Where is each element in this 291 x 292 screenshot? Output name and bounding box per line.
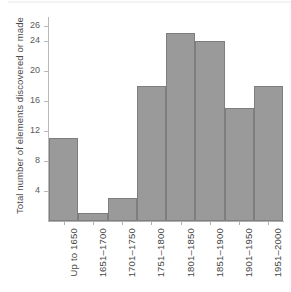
x-axis-label: 1851–1900: [214, 228, 225, 277]
x-tick-mark: [64, 221, 65, 225]
x-axis-labels: Up to 16501651–17001701–17501751–1800180…: [49, 222, 283, 292]
histogram-figure: Total number of elements discovered or m…: [0, 0, 291, 292]
y-tick-label: 24: [30, 35, 40, 45]
bar: [166, 33, 195, 221]
y-axis-title: Total number of elements discovered or m…: [14, 1, 25, 231]
bar: [254, 86, 283, 221]
bar: [225, 108, 254, 221]
y-tick-label: 12: [30, 125, 40, 135]
y-tick-label: 8: [35, 155, 40, 165]
x-axis-label: Up to 1650: [68, 228, 79, 276]
y-tick-label: 16: [30, 95, 40, 105]
x-tick-mark: [268, 221, 269, 225]
bar-series: [49, 18, 283, 221]
x-tick-mark: [239, 221, 240, 225]
x-axis-label: 1901–1950: [243, 228, 254, 277]
bar: [108, 198, 137, 221]
y-tick-label: 4: [35, 185, 40, 195]
y-tick-label: 26: [30, 20, 40, 30]
x-axis-label: 1951–2000: [272, 228, 283, 277]
x-tick-mark: [122, 221, 123, 225]
x-tick-mark: [181, 221, 182, 225]
bar: [195, 41, 224, 221]
x-axis-label: 1801–1850: [185, 228, 196, 277]
y-tick-label: 20: [30, 65, 40, 75]
x-axis-label: 1701–1750: [126, 228, 137, 277]
scan-edge-right: [289, 2, 291, 290]
scan-edge-top: [8, 1, 291, 4]
x-axis-label: 1651–1700: [97, 228, 108, 277]
x-tick-mark: [210, 221, 211, 225]
x-tick-mark: [151, 221, 152, 225]
bar: [137, 86, 166, 221]
x-axis-label: 1751–1800: [155, 228, 166, 277]
x-tick-mark: [93, 221, 94, 225]
bar: [49, 138, 78, 221]
bar: [78, 213, 107, 221]
